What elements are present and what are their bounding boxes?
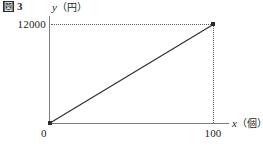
x-axis-label: x（個） bbox=[232, 118, 263, 129]
origin-label: 0 bbox=[41, 128, 47, 139]
data-point-endpoint bbox=[211, 22, 215, 26]
data-point-origin bbox=[48, 121, 52, 125]
x-axis-unit: （個） bbox=[237, 118, 263, 129]
plot-area: y（円） x（個） 12000 0 100 bbox=[0, 0, 263, 156]
figure-screenshot: 図 3 y（円） x（個） 12000 0 100 bbox=[0, 0, 263, 156]
x-axis-tick-label: 100 bbox=[200, 128, 226, 139]
y-axis-label: y（円） bbox=[52, 2, 87, 13]
y-axis-tick-label: 12000 bbox=[0, 19, 46, 30]
y-axis-unit: （円） bbox=[57, 2, 87, 13]
